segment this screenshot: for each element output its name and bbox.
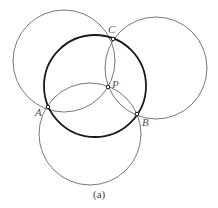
figure-caption: (a) bbox=[93, 188, 106, 201]
label-a: A bbox=[34, 106, 42, 118]
point-b bbox=[135, 112, 139, 116]
circumcircle-abc bbox=[44, 35, 146, 137]
circle-apc bbox=[13, 10, 115, 112]
point-a bbox=[46, 105, 50, 109]
point-p bbox=[106, 85, 110, 89]
label-c: C bbox=[108, 23, 116, 35]
point-c bbox=[111, 37, 115, 41]
circle-cpb bbox=[105, 17, 207, 119]
label-b: B bbox=[142, 116, 149, 128]
label-p: P bbox=[111, 78, 119, 90]
geometry-diagram: A B C P (a) bbox=[0, 0, 218, 208]
circle-apb bbox=[39, 83, 141, 185]
